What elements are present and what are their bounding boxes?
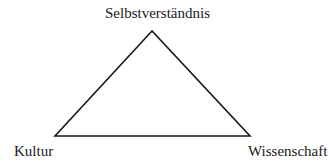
triangle-diagram: Selbstverständnis Kultur Wissenschaft [0,0,329,167]
vertex-label-wissenschaft: Wissenschaft [248,144,327,159]
vertex-label-kultur: Kultur [14,144,53,159]
vertex-label-selbstverstaendnis: Selbstverständnis [105,6,210,21]
triangle-shape [0,0,329,167]
